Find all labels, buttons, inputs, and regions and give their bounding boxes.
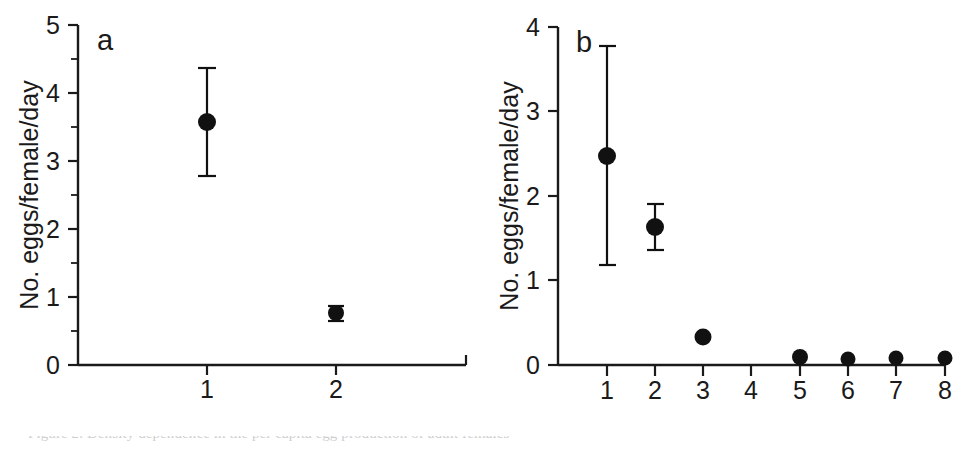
panel-b-ytick-label-0: 0 [526,351,540,379]
panel-a-datapoint-1 [198,68,216,176]
panel-b-marker-5 [792,349,808,365]
panel-b-x-axis-title: No. adult females/infrapopulation [560,411,926,415]
panel-b-xtick-label-8: 8 [938,376,952,404]
panel-a-y-axis-title: No. eggs/female/day [15,80,43,310]
panel-b-plot: 0 1 2 3 4 1 2 3 4 5 6 7 8 b [481,0,962,415]
panel-b-datapoint-2 [646,204,664,250]
panel-b-marker-3 [695,329,712,346]
panel-b-marker-8 [938,351,953,366]
panel-b-ytick-label-4: 4 [526,13,540,41]
panel-a-ytick-label-4: 4 [46,79,60,107]
panel-b-ytick-label-2: 2 [526,182,540,210]
cropped-caption-text: Figure 2. Density dependence in the per … [28,436,928,442]
panel-b-y-axis-title: No. eggs/female/day [495,81,523,311]
panel-b-marker-6 [841,352,856,367]
panel-b-datapoint-1 [598,46,616,265]
panel-a-x-axis-title: No. adult females/infrapopulation [79,411,445,415]
panel-b-xtick-label-1: 1 [600,376,614,404]
panel-b-letter: b [576,26,592,58]
figure-container: 0 1 2 3 4 5 1 2 a No. eggs/female/day No… [0,0,962,451]
panel-a-datapoint-2 [328,305,344,321]
panel-a-ytick-label-0: 0 [46,351,60,379]
panel-b-xtick-label-5: 5 [793,376,807,404]
panel-b-datapoint-3 [695,329,712,346]
panel-b-xtick-label-4: 4 [744,376,758,404]
panel-b-xtick-label-7: 7 [889,376,903,404]
panel-b-xtick-label-6: 6 [841,376,855,404]
panel-a-marker-1 [198,113,216,131]
panel-a-ytick-label-3: 3 [46,147,60,175]
panel-b-datapoint-6 [841,352,856,367]
panel-a-plot: 0 1 2 3 4 5 1 2 a No. eggs/female/day No… [0,0,481,415]
panel-a-ytick-label-1: 1 [46,283,60,311]
panel-b-marker-7 [889,351,904,366]
panel-b-datapoint-7 [889,351,904,366]
panel-b-ytick-label-1: 1 [526,266,540,294]
cropped-caption-strip: Figure 2. Density dependence in the per … [0,436,962,451]
panel-b-ytick-label-3: 3 [526,97,540,125]
panel-b-marker-1 [598,147,616,165]
panel-b-marker-2 [646,218,664,236]
panel-a-xtick-label-2: 2 [329,375,343,403]
panel-b-xtick-label-2: 2 [648,376,662,404]
panel-a-ytick-label-5: 5 [46,11,60,39]
panel-a-xtick-label-1: 1 [200,375,214,403]
chart-panel-b: 0 1 2 3 4 1 2 3 4 5 6 7 8 b [481,0,962,415]
panel-b-datapoint-5 [792,349,808,365]
chart-panel-a: 0 1 2 3 4 5 1 2 a No. eggs/female/day No… [0,0,481,415]
panel-a-ytick-label-2: 2 [46,215,60,243]
panel-b-xtick-label-3: 3 [696,376,710,404]
panel-b-datapoint-8 [938,351,953,366]
panel-a-marker-2 [328,305,344,321]
panel-a-letter: a [97,24,114,56]
